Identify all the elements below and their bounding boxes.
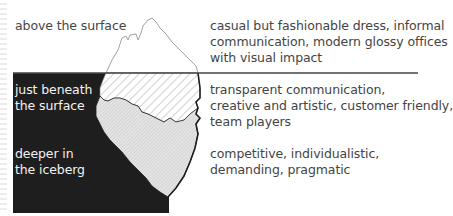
- description-line: team players: [210, 114, 453, 130]
- level-label-deeper: deeper in the iceberg: [15, 146, 85, 178]
- description-line: competitive, individualistic,: [210, 146, 379, 162]
- label-line: just beneath: [15, 82, 92, 98]
- level-label-just-beneath: just beneath the surface: [15, 82, 92, 114]
- label-line: above the surface: [15, 18, 126, 33]
- description-line: creative and artistic, customer friendly…: [210, 98, 453, 114]
- label-line: the surface: [15, 98, 92, 114]
- level-label-above-surface: above the surface: [15, 18, 126, 34]
- description-line: with visual impact: [210, 50, 448, 66]
- label-line: deeper in: [15, 146, 85, 162]
- description-just-beneath: transparent communication, creative and …: [210, 82, 453, 130]
- description-line: casual but fashionable dress, informal: [210, 18, 448, 34]
- description-deeper: competitive, individualistic, demanding,…: [210, 146, 379, 178]
- description-line: demanding, pragmatic: [210, 162, 379, 178]
- description-line: transparent communication,: [210, 82, 453, 98]
- label-line: the iceberg: [15, 162, 85, 178]
- description-above-surface: casual but fashionable dress, informal c…: [210, 18, 448, 66]
- description-line: communication, modern glossy offices: [210, 34, 448, 50]
